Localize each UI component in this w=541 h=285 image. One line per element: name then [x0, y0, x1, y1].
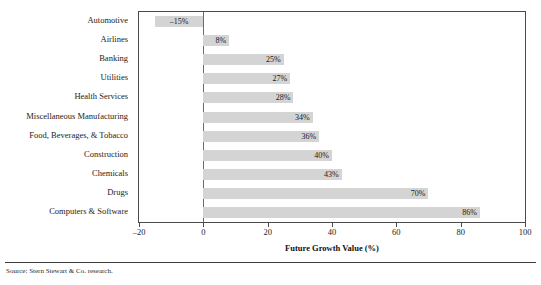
category-label: Banking: [99, 54, 128, 63]
x-tick-label: 20: [248, 227, 288, 237]
footer-divider: [5, 262, 536, 263]
bar-value-label: –15%: [155, 16, 203, 27]
bar-value-label: 28%: [203, 92, 290, 103]
category-label: Automotive: [87, 16, 128, 25]
bar-value-label: 70%: [203, 188, 425, 199]
x-tick-label: 0: [183, 227, 223, 237]
x-axis-title: Future Growth Value (%): [138, 243, 526, 253]
bar-value-label: 34%: [203, 112, 309, 123]
category-label: Utilities: [101, 73, 128, 82]
x-tick-label: 60: [376, 227, 416, 237]
source-note: Source: Stern Stewart & Co. research.: [6, 267, 113, 276]
figure: AutomotiveAirlinesBankingUtilitiesHealth…: [0, 0, 541, 285]
category-label: Food, Beverages, & Tobacco: [29, 131, 128, 140]
category-label: Drugs: [107, 188, 128, 197]
bar-value-label: 36%: [203, 131, 316, 142]
x-tick-label: 40: [312, 227, 352, 237]
bar-value-label: 8%: [203, 35, 226, 46]
bar-value-label: 27%: [203, 73, 287, 84]
x-axis: –20020406080100: [138, 223, 526, 241]
plot-area: –15%8%25%27%28%34%36%40%43%70%86%: [138, 11, 526, 223]
bar-value-label: 40%: [203, 150, 329, 161]
category-label: Health Services: [74, 92, 128, 101]
x-tick-label: 80: [441, 227, 481, 237]
category-label: Chemicals: [92, 169, 128, 178]
category-axis-labels: AutomotiveAirlinesBankingUtilitiesHealth…: [0, 11, 133, 223]
bar-value-label: 86%: [203, 207, 477, 218]
bar-value-label: 43%: [203, 169, 338, 180]
bar-value-label: 25%: [203, 54, 280, 65]
x-tick-label: –20: [119, 227, 159, 237]
category-label: Airlines: [101, 35, 128, 44]
x-tick-label: 100: [505, 227, 541, 237]
category-label: Computers & Software: [49, 207, 128, 216]
category-label: Miscellaneous Manufacturing: [26, 112, 128, 121]
category-label: Construction: [84, 150, 128, 159]
